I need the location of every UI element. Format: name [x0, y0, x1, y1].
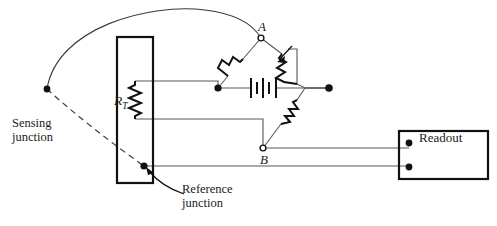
node-b-label: B [260, 153, 268, 168]
wire-rt-top-to-bridge-left [135, 81, 218, 88]
node-a [258, 35, 264, 41]
wire-variable-resistor-to-right-node [297, 84, 329, 88]
sensing-lead-dashed [47, 89, 144, 166]
node-bridge-left [214, 84, 221, 91]
wire-a-to-variable-resistor [261, 38, 282, 54]
circuit-schematic-canvas [0, 0, 497, 226]
reference-junction-label: Reference junction [182, 182, 233, 210]
readout-terminal-top [406, 140, 413, 147]
reference-junction-callout-shaft [149, 171, 184, 194]
wire-a-to-left-resistor [243, 38, 261, 59]
node-b [260, 145, 266, 151]
rt-label-symbol: R [114, 93, 122, 108]
wire-right-node-to-bottom-resistor [297, 88, 329, 100]
node-bridge-right [325, 84, 333, 92]
wire-bottom-resistor-to-b [263, 124, 281, 148]
reference-junction-label-line2: junction [182, 196, 233, 210]
rtd-bridge-diagram: Sensing junction Reference junction Read… [0, 0, 497, 226]
readout-label: Readout [419, 131, 462, 146]
node-a-label: A [258, 20, 266, 35]
bridge-resistor-left-symbol [218, 57, 243, 76]
rt-label-subscript: T [122, 101, 127, 111]
rt-label: RT [114, 93, 128, 111]
wire-rt-bottom-to-node-b [135, 119, 263, 148]
sensing-junction-label: Sensing junction [12, 116, 53, 144]
sensing-junction-label-line2: junction [12, 130, 53, 144]
reference-junction-label-line1: Reference [182, 182, 233, 196]
node-sensing-junction [44, 86, 51, 93]
readout-terminal-bottom [406, 164, 413, 171]
bridge-resistor-variable-symbol [276, 54, 297, 84]
sensing-junction-label-line1: Sensing [12, 116, 53, 130]
rt-thermistor-symbol [129, 81, 141, 119]
wire-variable-resistor-bracket [288, 49, 297, 84]
bridge-resistor-bottom-symbol [281, 100, 298, 124]
